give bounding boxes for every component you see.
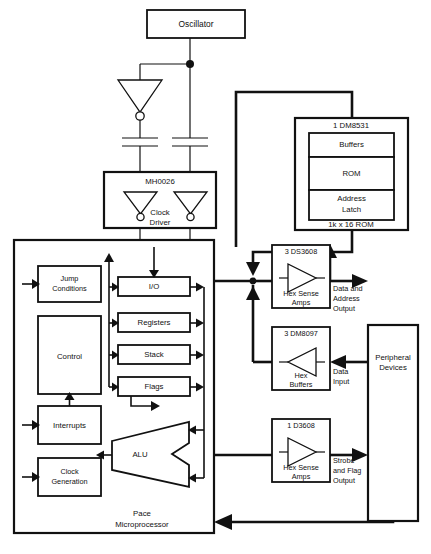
hex-buffers-label-1: Hex (295, 371, 308, 380)
jump-conditions-label-2: Conditions (52, 284, 87, 293)
pace-footer-label-2: Microprocessor (115, 520, 169, 529)
junction-dot-databus (250, 278, 257, 285)
io-label: I/O (149, 282, 159, 291)
sense-amps-top-label-2: Amps (292, 298, 311, 307)
control-label: Control (57, 352, 82, 361)
clock-driver-part-label: MH0026 (145, 177, 174, 186)
interrupts-label: Interrupts (53, 421, 86, 430)
stack-label: Stack (144, 350, 164, 359)
oscillator-label: Oscillator (179, 19, 214, 29)
rom-part-label: 1 DM8531 (333, 121, 369, 130)
data-address-output-label-1: Data and (333, 284, 363, 293)
clock-driver-label-2: Driver (150, 218, 171, 227)
sense-amps-bottom-part-label: 1 D3608 (287, 421, 315, 430)
arrowhead-bus-up-into-node (246, 286, 260, 300)
peripheral-devices-label-1: Peripheral (375, 353, 411, 362)
rom-footer-label: 1k x 16 ROM (328, 220, 374, 229)
flags-label: Flags (144, 382, 163, 391)
arrowhead-rom-into-node (246, 262, 260, 276)
pace-footer-label-1: Pace (133, 509, 151, 518)
hex-buffers-part-label: 3 DM8097 (284, 329, 318, 338)
data-input-label-1: Data (333, 367, 349, 376)
data-address-output-label-3: Output (333, 304, 355, 313)
block-diagram-canvas: Oscillator MH0026 Clock Driver 1 DM8531 … (0, 0, 431, 554)
rom-core-label: ROM (342, 169, 360, 178)
alu-label: ALU (132, 450, 148, 459)
strobe-flag-output-label-3: Output (333, 476, 355, 485)
inverter-bubble-left (137, 213, 144, 220)
clock-generation-label-1: Clock (60, 467, 79, 476)
hex-buffers-label-2: Buffers (290, 380, 313, 389)
data-input-label-2: Input (333, 377, 349, 386)
inverter-bubble-top (136, 112, 144, 120)
sense-amps-top-part-label: 3 DS3608 (285, 247, 317, 256)
registers-label: Registers (138, 318, 171, 327)
sense-amps-bottom-label-2: Amps (292, 472, 311, 481)
strobe-flag-output-label-2: and Flag (333, 466, 361, 475)
data-address-output-label-2: Address (333, 294, 360, 303)
rom-buffers-label: Buffers (339, 140, 364, 149)
clock-generation-label-2: Generation (51, 477, 87, 486)
inverter-symbol-top (118, 80, 162, 112)
peripheral-devices-label-2: Devices (379, 363, 407, 372)
rom-address-latch-label-1: Address (337, 194, 366, 203)
arrowhead-interrupt-jump-into-proc (214, 514, 232, 530)
rom-address-latch-label-2: Latch (342, 205, 361, 214)
jump-conditions-label-1: Jump (61, 274, 79, 283)
sense-amps-top-label-1: Hex Sense (283, 289, 319, 298)
sense-amps-bottom-label-1: Hex Sense (283, 463, 319, 472)
inverter-bubble-right (187, 213, 194, 220)
pace-system-diagram: Oscillator MH0026 Clock Driver 1 DM8531 … (0, 0, 431, 554)
strobe-flag-output-label-1: Strobe (333, 456, 355, 465)
clock-driver-label-1: Clock (150, 208, 170, 217)
